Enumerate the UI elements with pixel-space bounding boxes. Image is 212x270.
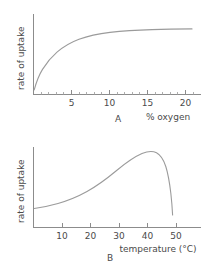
chart-a-curve	[34, 29, 192, 90]
chart-a-svg: rate of uptake	[0, 0, 212, 135]
chart-b-panel-letter: B	[107, 253, 113, 263]
chart-b-x-tick-label-40: 40	[142, 231, 154, 241]
chart-b-y-axis-label: rate of uptake	[16, 159, 26, 223]
chart-a-x-tick-label-20: 20	[180, 98, 192, 108]
chart-a-x-tick-label-5: 5	[69, 98, 75, 108]
chart-panel-b: rate of uptake 10 20 30 40 50 temperatur…	[0, 135, 212, 270]
chart-a-panel-letter: A	[115, 114, 122, 124]
chart-a-x-ticks-major	[72, 90, 186, 95]
chart-b-curve	[34, 152, 172, 215]
chart-a-x-ticks-minor	[41, 92, 193, 95]
chart-b-x-tick-label-50: 50	[170, 231, 182, 241]
chart-a-x-axis-label: % oxygen	[146, 112, 190, 122]
chart-b-x-tick-label-20: 20	[85, 231, 97, 241]
chart-b-x-tick-label-30: 30	[113, 231, 125, 241]
chart-b-svg: rate of uptake 10 20 30 40 50 temperatur…	[0, 135, 212, 270]
chart-panel-a: rate of uptake	[0, 0, 212, 135]
chart-b-x-tick-label-10: 10	[56, 231, 68, 241]
chart-a-x-tick-label-15: 15	[142, 98, 153, 108]
chart-a-y-axis-label: rate of uptake	[16, 26, 26, 90]
chart-a-x-tick-label-10: 10	[104, 98, 116, 108]
chart-b-x-axis-label: temperature (°C)	[119, 244, 196, 254]
chart-b-x-ticks-major	[62, 223, 176, 228]
